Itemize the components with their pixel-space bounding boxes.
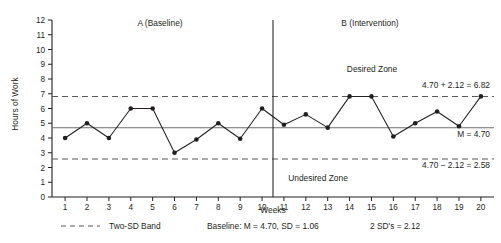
y-tick-label: 11	[37, 31, 46, 40]
x-tick-label: 5	[150, 203, 155, 212]
y-tick-label: 1	[40, 178, 45, 187]
data-point	[107, 136, 112, 141]
y-tick-label: 0	[40, 193, 45, 202]
y-tick-label: 6	[40, 105, 45, 114]
x-tick-label: 1	[63, 203, 68, 212]
data-point	[282, 122, 287, 127]
data-point	[304, 112, 309, 117]
data-point	[325, 125, 330, 130]
data-point	[216, 121, 221, 126]
x-tick-label: 14	[345, 203, 355, 212]
desired-zone-label: Desired Zone	[347, 64, 398, 74]
phase-a-label: A (Baseline)	[137, 18, 182, 28]
phase-b-label: B (Intervention)	[341, 18, 398, 28]
y-tick-label: 5	[40, 119, 45, 128]
undesired-zone-label: Undesired Zone	[288, 173, 348, 183]
legend-baseline-stats: Baseline: M = 4.70, SD = 1.06	[207, 221, 319, 231]
x-tick-label: 3	[107, 203, 112, 212]
y-tick-label: 7	[40, 90, 45, 99]
chart-background	[0, 0, 501, 243]
x-tick-label: 4	[128, 203, 133, 212]
data-point	[194, 137, 199, 142]
y-axis-title: Hours of Work	[10, 77, 20, 131]
two-sd-band-line-chart: Hours of Work 0123456789101112 123456789…	[0, 0, 501, 243]
legend-band-label: Two-SD Band	[109, 221, 161, 231]
data-point	[435, 109, 440, 114]
y-tick-label: 8	[40, 75, 45, 84]
x-tick-label: 9	[238, 203, 243, 212]
x-tick-label: 12	[301, 203, 311, 212]
data-point	[457, 124, 462, 129]
x-tick-label: 7	[194, 203, 199, 212]
y-tick-label: 4	[40, 134, 45, 143]
x-tick-label: 2	[85, 203, 90, 212]
x-tick-label: 8	[216, 203, 221, 212]
data-point	[260, 106, 265, 111]
x-axis-title: Weeks	[260, 205, 285, 215]
data-point	[172, 150, 177, 155]
x-tick-label: 17	[411, 203, 421, 212]
mean-callout: M = 4.70	[457, 129, 490, 139]
data-point	[479, 94, 484, 99]
x-tick-label: 13	[323, 203, 333, 212]
lower-band-callout: 4.70 − 2.12 = 2.58	[422, 160, 490, 170]
y-tick-label: 3	[40, 149, 45, 158]
y-tick-label: 2	[40, 164, 45, 173]
data-point	[128, 106, 133, 111]
y-tick-label: 9	[40, 60, 45, 69]
y-tick-label: 10	[36, 46, 46, 55]
x-tick-label: 20	[476, 203, 486, 212]
data-point	[369, 94, 374, 99]
legend-two-sd: 2 SD's = 2.12	[370, 221, 421, 231]
data-point	[63, 136, 68, 141]
upper-band-callout: 4.70 + 2.12 = 6.82	[422, 80, 490, 90]
y-tick-label: 12	[36, 16, 46, 25]
x-tick-label: 15	[367, 203, 377, 212]
chart-figure: Hours of Work 0123456789101112 123456789…	[0, 0, 501, 243]
x-tick-label: 19	[454, 203, 464, 212]
data-point	[85, 121, 90, 126]
data-point	[150, 106, 155, 111]
x-tick-label: 16	[389, 203, 399, 212]
data-point	[413, 121, 418, 126]
x-tick-label: 18	[433, 203, 443, 212]
x-tick-label: 6	[172, 203, 177, 212]
data-point	[391, 134, 396, 139]
data-point	[238, 136, 243, 141]
data-point	[347, 94, 352, 99]
